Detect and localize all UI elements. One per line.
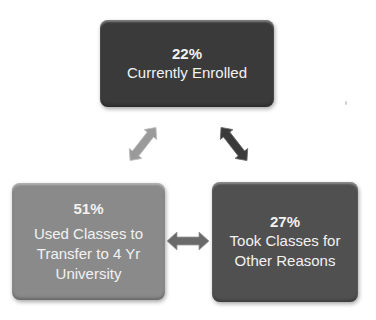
node-percent: 22%	[172, 45, 202, 63]
double-arrow-icon	[166, 230, 210, 252]
node-currently-enrolled: 22% Currently Enrolled	[100, 20, 274, 107]
node-label: Took Classes for Other Reasons	[223, 231, 348, 271]
node-label: Currently Enrolled	[127, 63, 247, 83]
decorative-speck	[345, 101, 347, 105]
node-other-reasons: 27% Took Classes for Other Reasons	[212, 182, 358, 302]
double-arrow-icon	[216, 124, 252, 164]
double-arrow-icon	[125, 124, 161, 164]
node-percent: 27%	[270, 213, 300, 231]
node-percent: 51%	[73, 200, 103, 218]
node-transfer-university: 51% Used Classes to Transfer to 4 Yr Uni…	[12, 183, 165, 300]
node-label: Used Classes to Transfer to 4 Yr Univers…	[24, 224, 154, 284]
